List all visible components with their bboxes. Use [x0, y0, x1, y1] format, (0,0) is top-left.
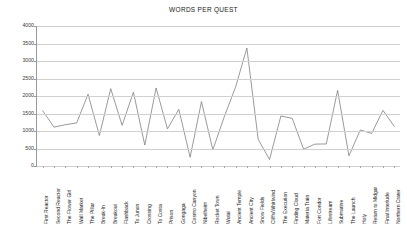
x-axis-tick-label: Return to Midgar	[373, 187, 378, 224]
x-axis-tick-mark	[122, 166, 123, 168]
x-axis-tick-mark	[133, 166, 134, 168]
x-axis-tick-mark	[236, 166, 237, 168]
x-axis-tick-label: Wutai	[226, 211, 231, 224]
x-axis-tick-mark	[247, 166, 248, 168]
x-axis-tick-mark	[167, 166, 168, 168]
plot-area	[37, 26, 400, 166]
x-axis-tick-label: Fort Condor	[317, 197, 322, 224]
x-axis-tick-mark	[258, 166, 259, 168]
y-axis-tick-label: 500	[4, 146, 34, 151]
x-axis-tick-label: Snow Fields	[260, 197, 265, 224]
x-axis-tick-mark	[145, 166, 146, 168]
y-axis-tick-label: 4000	[4, 23, 34, 28]
x-axis-tick-mark	[394, 166, 395, 168]
series-polyline	[43, 48, 395, 159]
y-axis-tick-label: 2500	[4, 76, 34, 81]
x-axis-tick-label: Ancient City	[249, 197, 254, 224]
x-axis-tick-label: Lifestream	[328, 201, 333, 224]
x-axis-tick-mark	[349, 166, 350, 168]
gridline	[37, 44, 400, 45]
y-axis-tick-label: 2000	[4, 93, 34, 98]
x-axis-tick-mark	[88, 166, 89, 168]
gridline	[37, 149, 400, 150]
x-axis-tick-mark	[383, 166, 384, 168]
x-axis-tick-mark	[99, 166, 100, 168]
x-axis-tick-label: Gongaga	[181, 203, 186, 224]
x-axis-tick-label: The Pillar	[90, 203, 95, 224]
x-axis-tick-mark	[360, 166, 361, 168]
x-axis-tick-mark	[338, 166, 339, 168]
x-axis-tick-label: Crossing	[147, 204, 152, 224]
x-axis-tick-label: Rocket Town	[215, 195, 220, 224]
x-axis-tick-label: Submarine	[339, 200, 344, 224]
x-axis-tick-label: Finding Cloud	[294, 193, 299, 224]
x-axis-tick-mark	[270, 166, 271, 168]
x-axis-tick-mark	[315, 166, 316, 168]
gridline	[37, 79, 400, 80]
x-axis-tick-mark	[292, 166, 293, 168]
gridline	[37, 26, 400, 27]
x-axis-tick-label: Flashback	[124, 201, 129, 224]
x-axis-tick-label: Cosmo Canyon	[192, 190, 197, 224]
x-axis-tick-mark	[179, 166, 180, 168]
x-axis-tick-mark	[111, 166, 112, 168]
x-axis-tick-mark	[224, 166, 225, 168]
x-axis-tick-mark	[77, 166, 78, 168]
x-axis-tick-mark	[156, 166, 157, 168]
x-axis-tick-label: Cliffs/Whirlwind	[271, 190, 276, 224]
y-axis-tick-label: 3500	[4, 41, 34, 46]
x-axis-labels: First ReactorSecond ReactorThe Flower Gi…	[0, 168, 407, 227]
x-axis-tick-label: Holy	[362, 214, 367, 224]
x-axis-tick-label: Breakout	[113, 204, 118, 224]
x-axis-tick-mark	[281, 166, 282, 168]
x-axis-tick-label: The Execution	[283, 192, 288, 224]
x-axis-tick-mark	[65, 166, 66, 168]
chart-title: WORDS PER QUEST	[0, 6, 407, 13]
x-axis-tick-mark	[201, 166, 202, 168]
x-axis-tick-label: Break-In	[101, 205, 106, 224]
gridline	[37, 61, 400, 62]
x-axis-tick-label: Nibelheim	[203, 202, 208, 224]
x-axis-tick-label: To Costa	[158, 204, 163, 224]
x-axis-tick-mark	[372, 166, 373, 168]
line-chart-container: WORDS PER QUEST 050010001500200025003000…	[0, 0, 407, 227]
x-axis-tick-label: To Junon	[135, 204, 140, 224]
y-axis-tick-label: 1000	[4, 128, 34, 133]
x-axis-tick-mark	[190, 166, 191, 168]
x-axis-tick-label: Materia Train	[305, 195, 310, 224]
x-axis-tick-label: Ancient Temple	[237, 190, 242, 224]
x-axis-tick-label: Second Reactor	[56, 188, 61, 224]
x-axis-tick-label: Northern Crater	[396, 189, 401, 224]
gridline	[37, 96, 400, 97]
x-axis-tick-mark	[54, 166, 55, 168]
x-axis-tick-label: The Launch	[351, 198, 356, 224]
x-axis-tick-mark	[43, 166, 44, 168]
gridline	[37, 166, 400, 167]
x-axis-tick-label: Prison	[169, 210, 174, 224]
y-axis-tick-label: 3000	[4, 58, 34, 63]
x-axis-tick-label: Wall Market	[79, 198, 84, 224]
y-axis-tick-label: 1500	[4, 111, 34, 116]
x-axis-tick-mark	[213, 166, 214, 168]
gridline	[37, 114, 400, 115]
gridline	[37, 131, 400, 132]
x-axis-tick-label: First Reactor	[44, 195, 49, 224]
x-axis-tick-label: The Flower Girl	[67, 190, 72, 224]
x-axis-tick-label: Final Interlude	[385, 192, 390, 224]
x-axis-tick-mark	[304, 166, 305, 168]
x-axis-tick-mark	[326, 166, 327, 168]
